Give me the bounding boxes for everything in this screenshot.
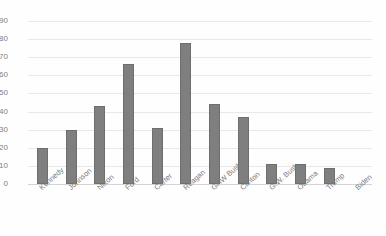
y-axis-tick-label: 10: [0, 162, 8, 170]
y-axis-tick-label: 20: [0, 144, 8, 152]
chart-title: [0, 0, 386, 9]
y-axis-tick-label: 30: [0, 126, 8, 134]
y-axis-tick-label: 40: [0, 108, 8, 116]
y-axis: 9080706050403020100: [28, 21, 372, 184]
y-axis-tick-label: 80: [0, 35, 8, 43]
bar-chart: 9080706050403020100 KennedyJohnsonNixonF…: [0, 0, 386, 236]
y-axis-tick-label: 70: [0, 53, 8, 61]
y-axis-tick-label: 50: [0, 89, 8, 97]
y-axis-tick-label: 0: [0, 180, 8, 188]
y-axis-tick-label: 60: [0, 71, 8, 79]
x-axis: KennedyJohnsonNixonFordCarterReaganGHW B…: [28, 186, 386, 236]
y-axis-tick-label: 90: [0, 17, 8, 25]
